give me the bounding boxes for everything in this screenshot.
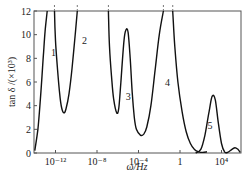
x-tick-label: 10⁴ (215, 156, 229, 167)
curve-4 (173, 11, 207, 152)
y-tick-label: 6 (26, 77, 31, 88)
y-tick-label: 10 (21, 29, 31, 40)
y-tick-label: 2 (26, 124, 31, 135)
curve-label-2: 2 (82, 35, 87, 46)
y-axis-ticks: 024681012 (21, 6, 37, 159)
y-tick-label: 12 (21, 6, 31, 17)
y-tick-label: 4 (26, 100, 31, 111)
chart: 024681012 10⁻¹²10⁻⁸10⁻⁴110⁴ 12345 tan δ … (0, 0, 248, 172)
curve-5 (196, 95, 241, 153)
x-axis-title: ω/Hz (127, 161, 148, 172)
curve-2 (55, 11, 78, 113)
y-axis-title: tan δ /(×10³) (6, 57, 18, 107)
curve-label-5: 5 (208, 120, 213, 131)
x-tick-label: 1 (178, 156, 183, 167)
curve-label-3: 3 (126, 91, 131, 102)
curve-label-1: 1 (51, 47, 56, 58)
curve-3 (108, 11, 163, 136)
x-tick-label: 10⁻¹² (45, 156, 66, 167)
y-tick-label: 8 (26, 53, 31, 64)
x-tick-label: 10⁻⁸ (88, 156, 107, 167)
curve-label-4: 4 (165, 77, 170, 88)
y-tick-label: 0 (26, 148, 31, 159)
